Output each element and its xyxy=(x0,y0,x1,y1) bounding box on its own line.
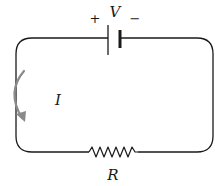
battery-voltage-label: V xyxy=(110,3,123,21)
battery-positive-sign: + xyxy=(90,11,101,26)
battery-negative-sign: − xyxy=(130,11,141,26)
resistor-label: R xyxy=(106,166,118,184)
wire-top-right xyxy=(121,38,213,152)
current-label: I xyxy=(54,91,62,109)
wire-top-left xyxy=(16,38,108,152)
resistor-zigzag xyxy=(89,147,138,157)
circuit-diagram: + V − R I xyxy=(0,0,215,186)
current-arrowhead-icon xyxy=(16,111,26,122)
